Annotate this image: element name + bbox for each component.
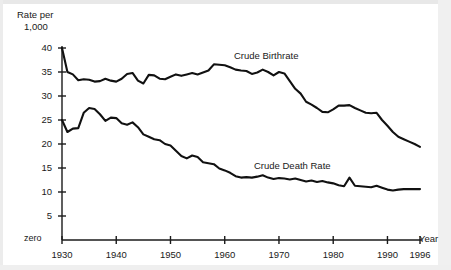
chart-plot-area bbox=[0, 0, 451, 270]
series-line-crude-death-rate bbox=[62, 108, 420, 191]
series-line-crude-birthrate bbox=[62, 48, 420, 147]
chart-page: Rate per 1,000 Year zero Crude Birthrate… bbox=[0, 0, 451, 270]
